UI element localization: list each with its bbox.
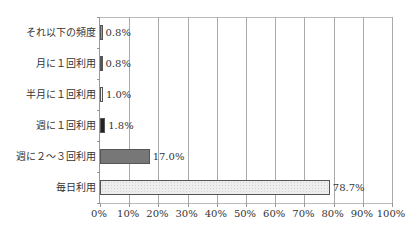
y-tick bbox=[97, 203, 100, 204]
category-label: 半月に１回利用 bbox=[26, 89, 96, 101]
bar bbox=[100, 87, 103, 102]
x-tick bbox=[246, 203, 247, 207]
x-tick bbox=[188, 203, 189, 207]
x-tick bbox=[217, 203, 218, 207]
gridline bbox=[129, 17, 130, 203]
value-label: 78.7% bbox=[333, 182, 365, 194]
bar bbox=[100, 118, 105, 133]
x-tick bbox=[304, 203, 305, 207]
category-label: それ以下の頻度 bbox=[26, 27, 96, 39]
gridline bbox=[158, 17, 159, 203]
value-label: 1.8% bbox=[108, 120, 133, 132]
gridline bbox=[188, 17, 189, 203]
value-label: 1.0% bbox=[106, 89, 131, 101]
usage-frequency-bar-chart: 0.8%0.8%1.0%1.8%17.0%78.7% 0%10%20%30%40… bbox=[0, 0, 419, 230]
gridline bbox=[246, 17, 247, 203]
x-tick bbox=[158, 203, 159, 207]
x-tick-label: 20% bbox=[146, 208, 168, 220]
bar bbox=[100, 180, 330, 195]
gridline bbox=[217, 17, 218, 203]
y-tick bbox=[97, 17, 100, 18]
x-tick bbox=[363, 203, 364, 207]
value-label: 0.8% bbox=[106, 27, 131, 39]
gridline bbox=[334, 17, 335, 203]
gridline bbox=[275, 17, 276, 203]
value-label: 17.0% bbox=[153, 151, 185, 163]
x-tick-label: 100% bbox=[377, 208, 406, 220]
x-tick-label: 10% bbox=[117, 208, 139, 220]
value-label: 0.8% bbox=[106, 58, 131, 70]
y-tick bbox=[97, 141, 100, 142]
y-tick bbox=[97, 79, 100, 80]
bar bbox=[100, 149, 150, 164]
category-label: 月に１回利用 bbox=[36, 58, 96, 70]
x-tick-label: 50% bbox=[234, 208, 256, 220]
x-tick-label: 30% bbox=[175, 208, 197, 220]
category-label: 週に２～３回利用 bbox=[16, 151, 96, 163]
y-tick bbox=[97, 48, 100, 49]
x-tick-label: 40% bbox=[205, 208, 227, 220]
gridline bbox=[363, 17, 364, 203]
x-tick-label: 80% bbox=[321, 208, 343, 220]
bar bbox=[100, 56, 103, 71]
x-tick bbox=[392, 203, 393, 207]
x-tick bbox=[129, 203, 130, 207]
bar bbox=[100, 25, 103, 40]
gridline bbox=[392, 17, 393, 203]
y-tick bbox=[97, 110, 100, 111]
x-tick-label: 70% bbox=[292, 208, 314, 220]
category-label: 週に１回利用 bbox=[36, 120, 96, 132]
x-tick bbox=[100, 203, 101, 207]
x-tick-label: 90% bbox=[351, 208, 373, 220]
x-tick-label: 0% bbox=[91, 208, 107, 220]
x-tick-label: 60% bbox=[263, 208, 285, 220]
category-label: 毎日利用 bbox=[56, 182, 96, 194]
gridline bbox=[304, 17, 305, 203]
x-tick bbox=[275, 203, 276, 207]
y-tick bbox=[97, 172, 100, 173]
x-tick bbox=[334, 203, 335, 207]
plot-area: 0.8%0.8%1.0%1.8%17.0%78.7% bbox=[99, 17, 392, 204]
